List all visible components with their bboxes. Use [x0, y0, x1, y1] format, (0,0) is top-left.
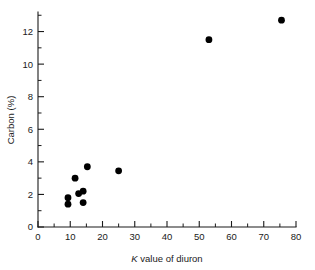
- x-axis-tick-labels: 01020304050607080: [35, 231, 301, 242]
- x-tick-label: 60: [226, 231, 237, 242]
- x-tick-label: 20: [97, 231, 108, 242]
- y-tick-label: 8: [28, 91, 33, 102]
- x-axis-ticks: [38, 221, 296, 227]
- y-tick-label: 12: [22, 26, 33, 37]
- y-axis-ticks: [38, 15, 44, 227]
- data-point: [65, 201, 72, 208]
- data-points: [65, 17, 285, 208]
- y-tick-label: 2: [28, 189, 33, 200]
- x-tick-label: 50: [194, 231, 205, 242]
- data-point: [80, 199, 87, 206]
- x-tick-label: 30: [129, 231, 140, 242]
- y-tick-label: 4: [28, 156, 33, 167]
- y-tick-label: 10: [22, 59, 33, 70]
- x-tick-label: 40: [162, 231, 173, 242]
- x-tick-label: 0: [35, 231, 40, 242]
- x-axis-title: K value of diuron: [131, 253, 202, 264]
- scatter-plot-figure: 01020304050607080 024681012 K value of d…: [0, 0, 315, 270]
- x-tick-label: 10: [65, 231, 76, 242]
- data-point: [84, 163, 91, 170]
- data-point: [65, 194, 72, 201]
- x-tick-label: 70: [258, 231, 269, 242]
- y-tick-label: 6: [28, 124, 33, 135]
- data-point: [80, 188, 87, 195]
- y-axis-title: Carbon (%): [5, 96, 16, 145]
- data-point: [278, 17, 285, 24]
- data-point: [72, 175, 79, 182]
- data-point: [206, 36, 213, 43]
- x-tick-label: 80: [291, 231, 302, 242]
- data-point: [115, 167, 122, 174]
- y-tick-label: 0: [28, 221, 33, 232]
- y-axis-tick-labels: 024681012: [22, 26, 33, 232]
- plot-canvas: 01020304050607080 024681012 K value of d…: [0, 0, 315, 270]
